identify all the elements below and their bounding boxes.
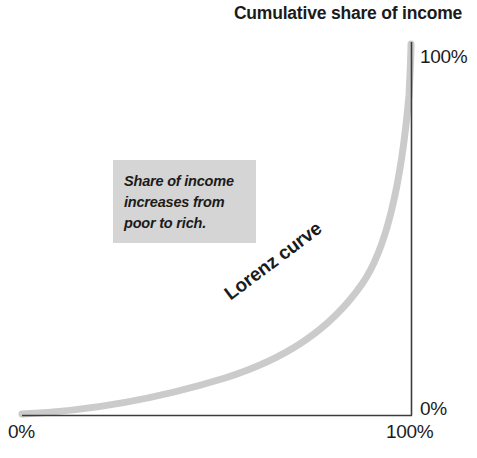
x-axis-tick-0: 0% xyxy=(8,421,35,443)
callout-text: Share of income increases from poor to r… xyxy=(124,171,256,234)
y-axis-tick-0: 0% xyxy=(420,398,447,420)
x-axis-tick-100: 100% xyxy=(386,421,433,443)
callout-box: Share of income increases from poor to r… xyxy=(113,160,256,243)
y-axis-tick-100: 100% xyxy=(420,46,467,68)
lorenz-curve-figure: Cumulative share of income 100% 0% 0% 10… xyxy=(0,0,477,458)
